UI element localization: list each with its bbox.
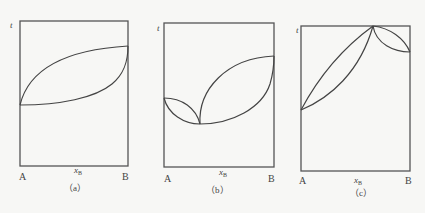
panel-b-x-axis-label: xB xyxy=(219,168,227,178)
panel-b-left-label: A xyxy=(164,174,171,184)
panel-a-left-label: A xyxy=(19,172,26,182)
panel-c-frame xyxy=(301,26,410,171)
panel-a-dew-curve xyxy=(20,46,128,105)
panel-a xyxy=(20,21,128,166)
panel-b-caption: （b） xyxy=(206,186,229,195)
panel-a-caption: （a） xyxy=(64,184,86,193)
panel-c-right-lower-curve xyxy=(373,26,410,52)
panel-c-y-axis-label: t xyxy=(296,26,299,35)
panel-b-right-label: B xyxy=(268,174,275,184)
panel-c-left-lower-curve xyxy=(301,26,373,110)
panel-a-y-axis-label: t xyxy=(10,21,13,30)
panel-b-right-bubble-curve xyxy=(200,56,274,124)
panel-b-frame xyxy=(164,23,274,167)
panel-c-x-axis-label: xB xyxy=(354,176,362,186)
panel-c-right-label: B xyxy=(405,176,412,186)
panel-a-x-axis-label: xB xyxy=(74,166,82,176)
panel-a-x-axis-subscript: B xyxy=(78,170,82,176)
panel-c-left-upper-curve xyxy=(301,26,373,110)
panel-a-right-label: B xyxy=(122,172,129,182)
panel-a-frame xyxy=(20,21,128,166)
panel-c-left-label: A xyxy=(299,176,306,186)
panel-b-x-axis-subscript: B xyxy=(223,172,227,178)
panel-c-x-axis-subscript: B xyxy=(358,180,362,186)
panel-c-caption: （c） xyxy=(350,189,372,198)
panel-b-y-axis-label: t xyxy=(157,24,160,33)
panel-c xyxy=(301,26,410,171)
panel-b xyxy=(164,23,274,167)
panel-b-right-dew-curve xyxy=(200,56,274,124)
